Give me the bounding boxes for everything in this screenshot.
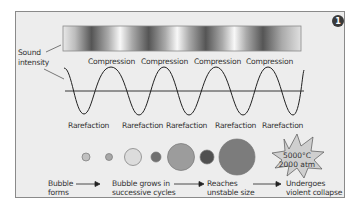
bubble [82,153,90,161]
arrow-icon [174,182,204,187]
temperature-label: 5000°C [283,151,311,160]
sound-label: Sound [18,48,41,57]
bubble-sequence [82,139,255,175]
step-badge: 1 [332,15,344,27]
collapse-starburst: 5000°C 2000 atm [272,134,324,178]
compression-label: Compression [246,57,293,66]
arrow-icon [253,182,281,187]
compression-label: Compression [88,57,135,66]
svg-text:1: 1 [335,17,341,26]
arrow-icon [76,182,100,187]
stage-caption: forms [48,188,69,197]
rarefaction-label: Rarefaction [122,121,164,130]
pointer-line [44,69,64,79]
stage-caption: successive cycles [112,188,176,197]
bubble [151,152,161,162]
stage-caption: unstable size [207,188,255,197]
stage-caption: Bubble grows in [112,179,170,188]
rarefaction-label: Rarefaction [262,121,304,130]
bubble [200,150,214,164]
bubble [106,154,113,161]
bubble [125,149,142,166]
bubble [168,144,195,171]
intensity-label: intensity [18,58,50,67]
stage-caption: violent collapse [286,188,343,197]
bubble [219,139,255,175]
cavitation-diagram: 1 Sound intensity Compression Compressio… [0,0,359,208]
rarefaction-label: Rarefaction [215,121,257,130]
stage-caption: Bubble [48,179,74,188]
stage-caption: Reaches [207,179,238,188]
pointer-line [46,45,61,52]
rarefaction-label: Rarefaction [68,121,110,130]
pressure-label: 2000 atm [279,160,315,169]
rarefaction-label: Rarefaction [166,121,208,130]
compression-label: Compression [141,57,188,66]
compression-label: Compression [194,57,241,66]
sound-intensity-bar [63,26,301,51]
stage-caption: Undergoes [286,179,325,188]
